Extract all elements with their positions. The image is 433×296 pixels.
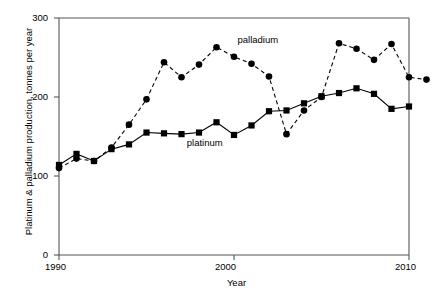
platinum-data-point <box>266 108 272 114</box>
platinum-data-point <box>336 90 342 96</box>
platinum-data-point <box>126 141 132 147</box>
palladium-series-label: palladium <box>238 34 279 45</box>
platinum-data-point <box>196 129 202 135</box>
palladium-data-point <box>283 131 290 138</box>
platinum-markers <box>56 85 412 168</box>
platinum-data-point <box>143 129 149 135</box>
palladium-data-point <box>388 41 395 48</box>
series-platinum <box>56 85 412 168</box>
palladium-data-point <box>161 59 168 66</box>
palladium-data-point <box>213 44 220 51</box>
platinum-data-point <box>248 122 254 128</box>
palladium-data-point <box>301 107 308 114</box>
platinum-data-point <box>56 162 62 168</box>
platinum-series-label: platinum <box>187 137 223 148</box>
platinum-data-point <box>301 100 307 106</box>
palladium-data-point <box>336 40 343 47</box>
palladium-data-point <box>266 73 273 80</box>
platinum-data-point <box>388 106 394 112</box>
platinum-data-point <box>406 103 412 109</box>
palladium-data-point <box>178 74 185 81</box>
palladium-data-point <box>196 61 203 68</box>
platinum-data-point <box>371 91 377 97</box>
palladium-data-point <box>143 96 150 103</box>
platinum-data-point <box>161 130 167 136</box>
palladium-data-point <box>231 53 238 60</box>
chart-container: Platinum & palladium production, tonnes … <box>0 0 433 296</box>
axes-group <box>54 18 409 260</box>
platinum-data-point <box>213 119 219 125</box>
platinum-data-point <box>353 85 359 91</box>
platinum-line <box>59 88 409 165</box>
palladium-data-point <box>126 121 133 128</box>
platinum-data-point <box>318 93 324 99</box>
plot-svg: palladium platinum <box>0 0 433 296</box>
palladium-data-point <box>248 61 255 68</box>
palladium-data-point <box>353 46 360 53</box>
palladium-data-point <box>423 76 430 83</box>
palladium-data-point <box>371 57 378 64</box>
platinum-data-point <box>178 131 184 137</box>
palladium-data-point <box>406 74 413 81</box>
platinum-data-point <box>91 158 97 164</box>
platinum-data-point <box>108 146 114 152</box>
platinum-data-point <box>231 132 237 138</box>
platinum-data-point <box>283 107 289 113</box>
platinum-data-point <box>73 151 79 157</box>
